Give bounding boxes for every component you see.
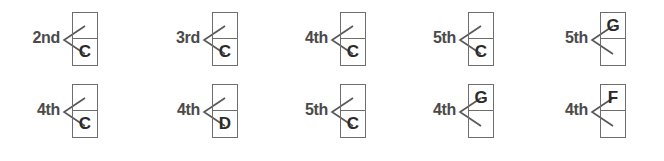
top-note-cell[interactable] (341, 85, 365, 111)
note-box: F (600, 84, 626, 138)
note-box: C (212, 12, 238, 66)
bottom-note-cell[interactable]: C (341, 111, 365, 137)
interval-label: 3rd (156, 29, 200, 47)
interval-label: 4th (16, 101, 60, 119)
top-note-cell[interactable] (341, 13, 365, 39)
top-note-cell[interactable] (469, 13, 493, 39)
note-box: C (340, 84, 366, 138)
note-box: C (468, 12, 494, 66)
interval-item: 2nd C (16, 12, 146, 72)
note-box: G (468, 84, 494, 138)
interval-item: 5th C (412, 12, 542, 72)
interval-item: 4th C (284, 12, 414, 72)
bottom-note-cell[interactable]: C (469, 39, 493, 65)
interval-label: 4th (156, 101, 200, 119)
interval-label: 5th (284, 101, 328, 119)
interval-item: 5th C (284, 84, 414, 144)
bottom-note-cell[interactable]: D (213, 111, 237, 137)
interval-label: 4th (284, 29, 328, 47)
top-note-cell[interactable] (73, 13, 97, 39)
note-box: C (340, 12, 366, 66)
interval-label: 5th (412, 29, 456, 47)
interval-label: 4th (544, 101, 588, 119)
bottom-note-cell[interactable]: C (341, 39, 365, 65)
interval-item: 5th G (544, 12, 664, 72)
top-note-cell[interactable] (213, 13, 237, 39)
top-note-cell[interactable] (213, 85, 237, 111)
bottom-note-cell[interactable]: C (213, 39, 237, 65)
top-note-cell[interactable] (73, 85, 97, 111)
bottom-note-cell[interactable] (601, 111, 625, 137)
interval-item: 4th D (156, 84, 286, 144)
bottom-note-cell[interactable] (469, 111, 493, 137)
interval-item: 4th C (16, 84, 146, 144)
top-note-cell[interactable]: G (601, 13, 625, 39)
note-box: G (600, 12, 626, 66)
interval-item: 3rd C (156, 12, 286, 72)
bottom-note-cell[interactable]: C (73, 111, 97, 137)
top-note-cell[interactable]: G (469, 85, 493, 111)
interval-label: 5th (544, 29, 588, 47)
bottom-note-cell[interactable] (601, 39, 625, 65)
note-box: D (212, 84, 238, 138)
interval-label: 2nd (16, 29, 60, 47)
top-note-cell[interactable]: F (601, 85, 625, 111)
interval-label: 4th (412, 101, 456, 119)
interval-item: 4th F (544, 84, 664, 144)
note-box: C (72, 12, 98, 66)
interval-item: 4th G (412, 84, 542, 144)
bottom-note-cell[interactable]: C (73, 39, 97, 65)
note-box: C (72, 84, 98, 138)
